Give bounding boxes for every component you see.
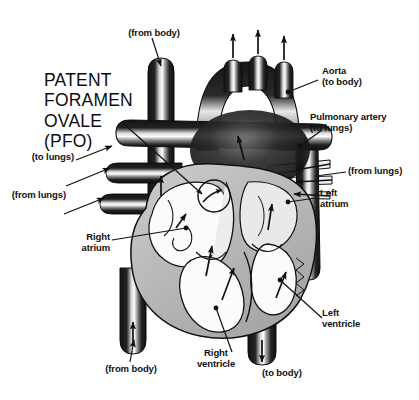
diagram-title: PATENT FORAMEN OVALE (PFO): [44, 70, 133, 151]
label-from-lungs-left: (from lungs): [0, 190, 66, 201]
label-to-body-bottom: (to body): [262, 368, 332, 379]
label-left-ventricle: Left ventricle: [322, 308, 384, 329]
leader-dot-right-ventricle: [214, 306, 219, 311]
heart-body-group: [131, 164, 317, 338]
label-from-body-bottom: (from body): [92, 364, 170, 375]
leader-dot-aorta: [286, 90, 291, 95]
label-pulmonary-artery: Pulmonary artery (to lungs): [310, 112, 416, 133]
left-common-carotid-artery: [249, 56, 267, 90]
leader-dot-left-ventricle: [278, 278, 283, 283]
label-right-ventricle: Right ventricle: [185, 348, 247, 369]
brachiocephalic-artery: [224, 60, 242, 92]
label-from-lungs-right: (from lungs): [348, 166, 419, 177]
label-to-lungs-left: (to lungs): [4, 152, 74, 163]
leader-dot-right-atrium: [184, 226, 189, 231]
leader-dot-pulmonary-artery: [298, 144, 303, 149]
label-right-atrium: Right atrium: [44, 232, 110, 253]
label-aorta: Aorta (to body): [322, 66, 394, 87]
leader-dot-left-atrium: [286, 200, 291, 205]
label-from-body-top: (from body): [112, 28, 196, 39]
label-left-atrium: Left atrium: [320, 188, 378, 209]
